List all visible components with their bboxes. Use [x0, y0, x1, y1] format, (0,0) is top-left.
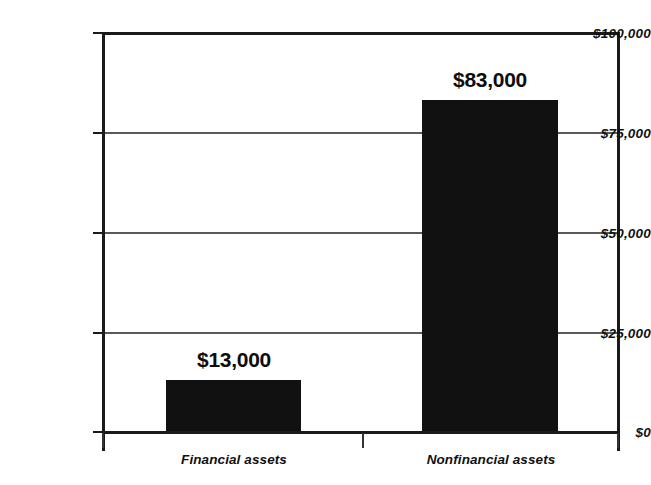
bar-value-label-financial-assets: $13,000 — [160, 348, 308, 372]
y-tick-label-25000: $25,000 — [559, 326, 651, 341]
y-tick-label-100000: $100,000 — [559, 26, 651, 41]
y-tick-label-75000: $75,000 — [559, 126, 651, 141]
x-category-label-nonfinancial-assets: Nonfinancial assets — [406, 452, 576, 467]
y-tick-mark-100000 — [93, 32, 104, 34]
y-tick-label-50000: $50,000 — [559, 226, 651, 241]
y-tick-mark-75000 — [93, 132, 104, 134]
y-axis-line — [102, 32, 105, 451]
bar-financial-assets — [167, 381, 300, 433]
category-separator-middle — [362, 433, 364, 448]
y-tick-mark-50000 — [93, 232, 104, 234]
y-tick-label-0: $0 — [559, 425, 651, 440]
plot-frame-top — [102, 32, 620, 35]
bar-nonfinancial-assets — [423, 101, 557, 433]
x-axis-baseline — [102, 431, 620, 434]
bar-chart-figure: $100,000 $75,000 $50,000 $25,000 $0 $13,… — [0, 0, 651, 485]
bar-value-label-nonfinancial-assets: $83,000 — [416, 68, 564, 92]
category-separator-left — [102, 433, 104, 448]
x-category-label-financial-assets: Financial assets — [158, 452, 310, 467]
y-tick-mark-25000 — [93, 332, 104, 334]
plot-frame-right — [617, 32, 620, 451]
